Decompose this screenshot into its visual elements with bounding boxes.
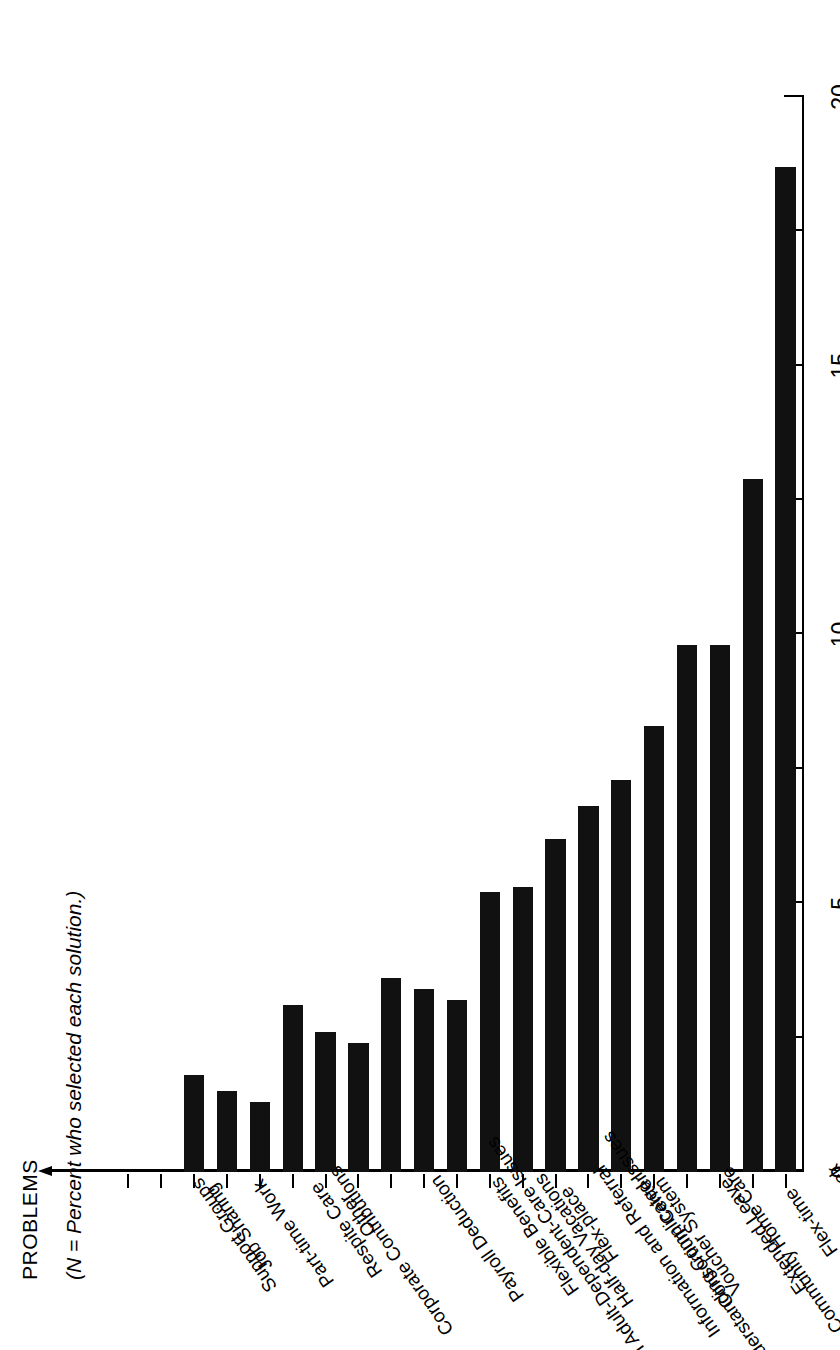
page-title: PROBLEMS xyxy=(18,1159,42,1280)
bar-row: Compressed Work Week xyxy=(710,97,730,1172)
bar-row: Respite Care xyxy=(250,97,270,1172)
bar-row: Consortium Center xyxy=(545,97,565,1172)
plot-area: 05101520 Adult Day CareFlex-timeCompress… xyxy=(112,97,802,1172)
bar-row: Half-day Vacations xyxy=(447,97,467,1172)
bar-row: Assistance in purchasing Insurance xyxy=(677,97,697,1172)
category-tick xyxy=(160,1174,162,1188)
figure: PROBLEMS (N = Percent who selected each … xyxy=(0,0,840,1350)
rotated-figure-wrapper: PROBLEMS (N = Percent who selected each … xyxy=(0,0,840,1350)
value-tick-label: 20 xyxy=(827,84,840,110)
value-tick-label: 15 xyxy=(827,353,840,379)
figure-subtitle: (N = Percent who selected each solution.… xyxy=(62,891,86,1280)
category-tick xyxy=(292,1174,294,1188)
category-tick xyxy=(390,1174,392,1188)
bar-row: Information and Referral xyxy=(480,97,500,1172)
bar xyxy=(710,645,730,1172)
bar xyxy=(545,839,565,1172)
bar-row: Extended Leave xyxy=(644,97,664,1172)
category-tick xyxy=(127,1174,129,1188)
bar xyxy=(644,726,664,1172)
category-tick xyxy=(226,1174,228,1188)
category-tick xyxy=(423,1174,425,1188)
bar-row: Support Groups xyxy=(118,97,138,1172)
bar-row: Part-time Work xyxy=(184,97,204,1172)
bar-row: Seminars on Adult-Dependent-Care Issues xyxy=(283,97,303,1172)
category-tick xyxy=(686,1174,688,1188)
bar-row: Assistance Understanding Complicated Iss… xyxy=(381,97,401,1172)
value-tick-label: 5 xyxy=(827,897,840,910)
axis-arrowhead-icon xyxy=(38,1166,52,1176)
category-tick xyxy=(456,1174,458,1188)
scanned-figure-page: PROBLEMS (N = Percent who selected each … xyxy=(0,0,840,1350)
bar-row: Community Home Care xyxy=(611,97,631,1172)
value-axis-line xyxy=(802,97,804,1172)
category-tick xyxy=(587,1174,589,1188)
value-tick-label: 10 xyxy=(827,622,840,648)
bar-row: Other xyxy=(315,97,335,1172)
bar-row: Voucher System xyxy=(578,97,598,1172)
bar-row: Payroll Deduction xyxy=(348,97,368,1172)
bar xyxy=(743,479,763,1172)
bar-row: Corporate Contributions xyxy=(217,97,237,1172)
bar-row: Job Sharing xyxy=(151,97,171,1172)
